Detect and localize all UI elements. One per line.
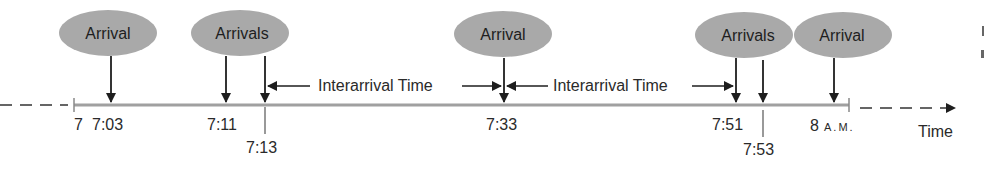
interval-2-label: Interarrival Time xyxy=(553,77,668,94)
tick-label-703: 7:03 xyxy=(92,116,123,133)
axis-label-time: Time xyxy=(918,123,953,140)
tick-label-733: 7:33 xyxy=(486,116,517,133)
arrival-timeline-diagram: Arrival Arrivals Arrival Arrivals Arriva… xyxy=(0,0,985,176)
tick-label-8: 8 xyxy=(810,117,819,134)
svg-text:Arrival: Arrival xyxy=(819,27,864,44)
bubble-arrivals-4: Arrivals xyxy=(695,12,793,58)
arrival-arrows xyxy=(111,56,834,102)
tick-label-753: 7:53 xyxy=(743,141,774,158)
interval-1-label: Interarrival Time xyxy=(318,77,433,94)
cropped-fragment xyxy=(981,50,984,58)
tick-label-713: 7:13 xyxy=(246,139,277,156)
tick-label-am: A.M. xyxy=(824,121,855,133)
svg-text:Arrivals: Arrivals xyxy=(721,27,774,44)
svg-text:Arrival: Arrival xyxy=(85,25,130,42)
cropped-fragment xyxy=(982,26,984,36)
svg-text:Arrival: Arrival xyxy=(480,26,525,43)
bubble-arrival-1: Arrival xyxy=(59,10,157,56)
svg-text:Arrivals: Arrivals xyxy=(215,25,268,42)
tick-label-711: 7:11 xyxy=(207,116,237,133)
tick-label-7: 7 xyxy=(74,116,83,133)
tick-label-751: 7:51 xyxy=(712,116,743,133)
bubble-arrivals-2: Arrivals xyxy=(191,10,289,56)
bubble-arrival-5: Arrival xyxy=(794,12,892,58)
bubble-arrival-3: Arrival xyxy=(454,11,552,57)
